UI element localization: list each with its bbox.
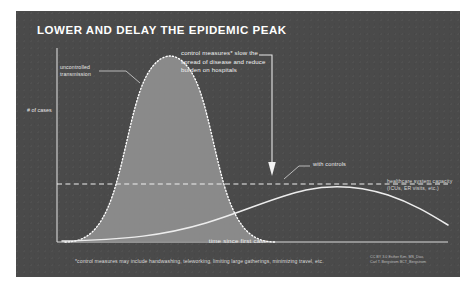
credit-block: CC BY 3.0 Esther Kim, MS_Dias Carl T. Be…: [370, 255, 426, 265]
y-axis-label: # of cases: [27, 107, 53, 114]
annotation-control-measures: control measures* slow the spread of dis…: [181, 49, 273, 75]
x-axis-label: time since first case: [16, 237, 460, 244]
annotation-uncontrolled: uncontrolled transmission: [60, 64, 114, 78]
footnote: *control measures may include handwashin…: [75, 258, 324, 264]
annotation-healthcare-capacity: healthcare system capacity (ICUs, ER vis…: [387, 178, 453, 191]
with-controls-leader-line: [284, 166, 310, 179]
credit-line-2: Carl T. Bergstrom BCT_Bergstrom: [370, 260, 426, 265]
annotation-with-controls: with controls: [313, 161, 369, 168]
control-measures-arrowhead: [268, 162, 276, 176]
poster-canvas: LOWER AND DELAY THE EPIDEMIC PEAK: [0, 0, 474, 291]
chart-panel: LOWER AND DELAY THE EPIDEMIC PEAK: [16, 11, 460, 277]
uncontrolled-curve-fill: [65, 56, 275, 242]
